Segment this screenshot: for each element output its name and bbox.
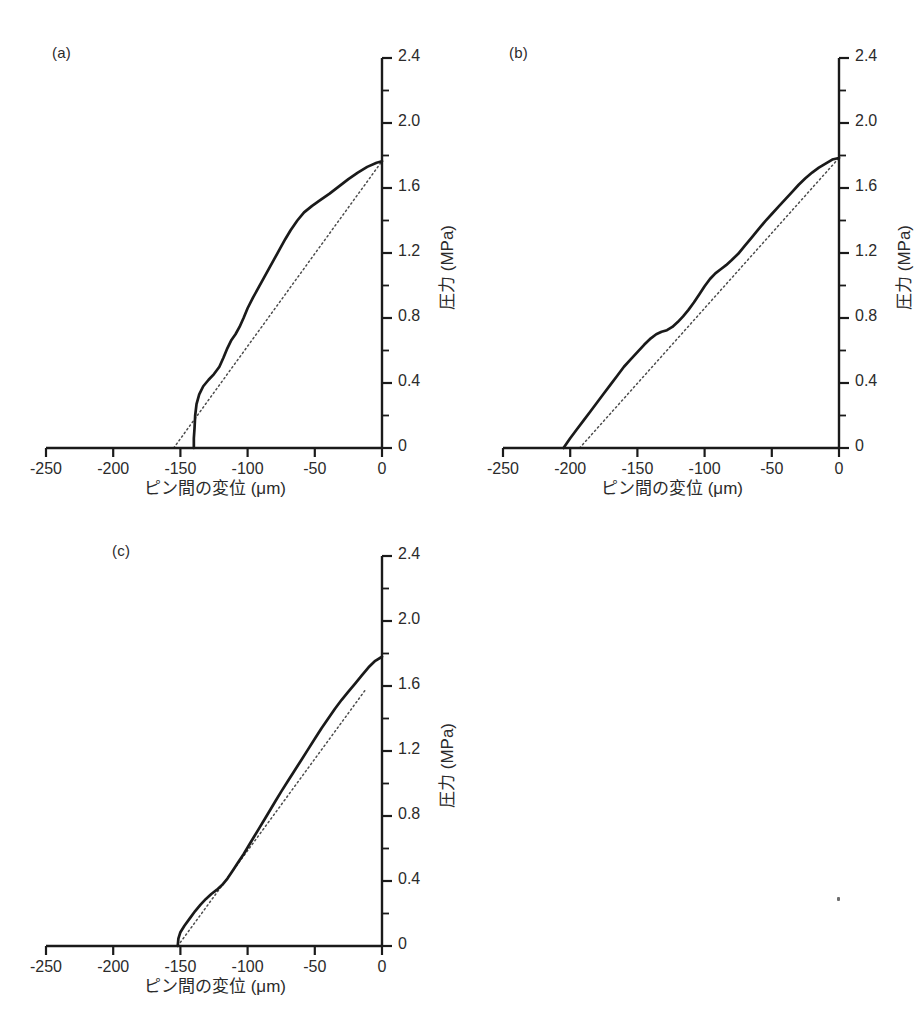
y-tick-label: 0 — [398, 935, 407, 953]
series-linear-fit — [178, 689, 366, 946]
x-tick-label: 0 — [352, 460, 412, 478]
y-tick-label: 0 — [398, 437, 407, 455]
panel-a: (a) 圧力 (MPa) ピン間の変位 (μm) -250-200-150-10… — [0, 0, 460, 510]
series-linear-fit — [174, 161, 382, 448]
x-tick-label: 0 — [809, 460, 869, 478]
y-tick-label: 0 — [855, 437, 864, 455]
y-tick-label: 0.4 — [855, 372, 877, 390]
panel-c-plot-area — [0, 498, 460, 1008]
panel-c: (c) 圧力 (MPa) ピン間の変位 (μm) -250-200-150-10… — [0, 498, 460, 1008]
series-measured — [178, 657, 382, 946]
x-tick-label: -250 — [16, 460, 76, 478]
x-tick-label: -100 — [218, 460, 278, 478]
x-tick-label: -250 — [473, 460, 533, 478]
panel-b-plot-area — [457, 0, 917, 510]
panel-a-ylabel: 圧力 (MPa) — [433, 225, 458, 310]
series-measured — [194, 161, 382, 448]
x-tick-label: 0 — [352, 958, 412, 976]
panel-b-ylabel: 圧力 (MPa) — [890, 225, 915, 310]
x-tick-label: -150 — [150, 958, 210, 976]
y-tick-label: 2.4 — [855, 47, 877, 65]
x-tick-label: -150 — [607, 460, 667, 478]
y-tick-label: 1.6 — [855, 177, 877, 195]
y-tick-label: 2.0 — [398, 610, 420, 628]
y-tick-label: 1.2 — [398, 740, 420, 758]
y-tick-label: 2.0 — [398, 112, 420, 130]
x-tick-label: -50 — [742, 460, 802, 478]
y-tick-label: 1.2 — [398, 242, 420, 260]
y-tick-label: 0.8 — [855, 307, 877, 325]
x-tick-label: -50 — [285, 460, 345, 478]
x-tick-label: -100 — [675, 460, 735, 478]
y-tick-label: 2.4 — [398, 47, 420, 65]
x-tick-label: -200 — [83, 958, 143, 976]
series-linear-fit — [580, 158, 839, 448]
x-tick-label: -150 — [150, 460, 210, 478]
panel-b: (b) 圧力 (MPa) ピン間の変位 (μm) -250-200-150-10… — [457, 0, 917, 510]
y-tick-label: 2.4 — [398, 545, 420, 563]
series-measured — [563, 158, 839, 448]
y-tick-label: 1.2 — [855, 242, 877, 260]
y-tick-label: 0.8 — [398, 307, 420, 325]
figure-three-panel-pressure-displacement: (a) 圧力 (MPa) ピン間の変位 (μm) -250-200-150-10… — [0, 0, 917, 1032]
x-tick-label: -100 — [218, 958, 278, 976]
y-tick-label: 0.4 — [398, 372, 420, 390]
panel-a-plot-area — [0, 0, 460, 510]
y-tick-label: 2.0 — [855, 112, 877, 130]
y-tick-label: 0.4 — [398, 870, 420, 888]
x-tick-label: -200 — [540, 460, 600, 478]
y-tick-label: 0.8 — [398, 805, 420, 823]
y-tick-label: 1.6 — [398, 177, 420, 195]
y-tick-label: 1.6 — [398, 675, 420, 693]
panel-c-ylabel: 圧力 (MPa) — [433, 723, 458, 808]
x-tick-label: -50 — [285, 958, 345, 976]
x-tick-label: -200 — [83, 460, 143, 478]
scan-artifact-dot — [837, 897, 840, 901]
x-tick-label: -250 — [16, 958, 76, 976]
